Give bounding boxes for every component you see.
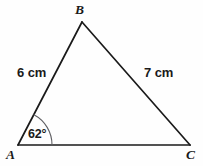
triangle-diagram: B A C 6 cm 7 cm 62° [0,0,203,166]
vertex-label-c: C [186,148,195,162]
vertex-label-b: B [75,3,84,17]
vertex-label-a: A [6,148,15,162]
side-length-label-ab: 6 cm [17,66,46,79]
side-length-label-bc: 7 cm [144,66,173,79]
angle-measure-label-a: 62° [28,128,46,141]
triangle-canvas [0,0,203,166]
triangle-side-bc [82,22,190,145]
